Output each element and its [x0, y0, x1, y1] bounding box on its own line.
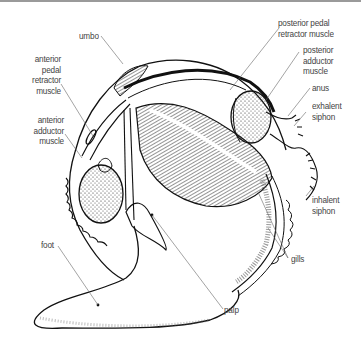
label-anterior-pedal-retractor-muscle: anterior pedal retractor muscle [9, 54, 61, 96]
label-posterior-pedal-retractor-muscle: posterior pedal retractor muscle [278, 18, 334, 39]
label-anterior-adductor-muscle: anterior adductor muscle [12, 115, 64, 147]
siphons [266, 112, 317, 200]
label-exhalent-siphon: exhalent siphon [312, 101, 342, 122]
label-umbo: umbo [79, 31, 99, 42]
foot [34, 226, 238, 328]
palp [126, 203, 166, 250]
label-gills: gills [291, 254, 304, 265]
label-palp: palp [224, 305, 239, 316]
label-foot: foot [41, 240, 54, 251]
anterior-adductor-muscle [79, 165, 123, 223]
label-anus: anus [312, 83, 329, 94]
label-inhalent-siphon: inhalent siphon [312, 195, 339, 216]
label-posterior-adductor-muscle: posterior adductor muscle [303, 45, 333, 77]
